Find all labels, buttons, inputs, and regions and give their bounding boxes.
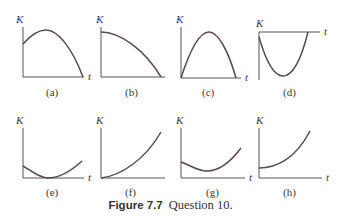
y-axis-label: K [175, 13, 184, 25]
panel-label: (d) [283, 86, 296, 99]
panel-c: K t (c) [175, 13, 249, 99]
x-axis-label: t [88, 70, 92, 82]
panel-g: K t (g) [175, 114, 253, 199]
curve [101, 132, 161, 178]
y-axis-label: K [15, 13, 24, 25]
axes [101, 128, 165, 178]
panel-h: K t (h) [255, 114, 330, 199]
y-axis-label: K [95, 114, 104, 126]
y-axis-label: K [255, 17, 264, 29]
figure-7-7: K t (a) K (b) K t (c) K t (d) K t (e) K [0, 0, 341, 221]
x-axis-label: t [245, 71, 249, 83]
y-axis-label: K [15, 114, 24, 126]
curve [23, 30, 83, 77]
panel-a: K t (a) [15, 13, 92, 99]
panel-b: K (b) [95, 13, 165, 99]
curve [181, 148, 241, 171]
x-axis-label: t [88, 171, 92, 183]
panel-label: (a) [46, 86, 59, 99]
curve [181, 32, 236, 78]
panel-label: (c) [202, 86, 215, 99]
x-axis-label: t [249, 171, 253, 183]
axes [23, 128, 84, 178]
curve [23, 161, 82, 178]
curve [259, 131, 310, 168]
curve [101, 32, 161, 77]
panel-label: (b) [125, 86, 138, 99]
panel-e: K t (e) [15, 114, 92, 199]
y-axis-label: K [95, 13, 104, 25]
x-axis-label: t [326, 171, 330, 183]
figure-number: Figure 7.7 [108, 199, 162, 211]
y-axis-label: K [175, 114, 184, 126]
figure-caption-text: Question 10. [169, 198, 233, 212]
curve [259, 32, 308, 76]
y-axis-label: K [255, 114, 264, 126]
figure-caption: Figure 7.7 Question 10. [0, 198, 341, 213]
panel-f: K (f) [95, 114, 165, 199]
panel-d: K t (d) [255, 17, 328, 99]
x-axis-label: t [324, 25, 328, 37]
axes [259, 128, 322, 178]
